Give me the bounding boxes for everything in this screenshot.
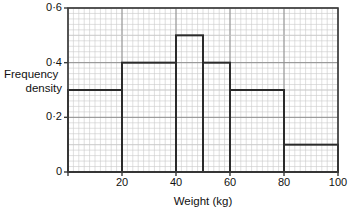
y-axis-label-line1: Frequency: [4, 68, 62, 82]
tick-marks-group: [64, 8, 338, 176]
y-tick-label: 0: [30, 165, 62, 177]
y-tick-label: 0·6: [30, 1, 62, 13]
x-tick-label: 20: [102, 176, 142, 188]
x-tick-label: 40: [156, 176, 196, 188]
y-axis-label-line2: density: [4, 82, 62, 96]
x-tick-label: 80: [264, 176, 304, 188]
histogram-figure: Frequency density Weight (kg) 00·20·40·6…: [0, 0, 350, 216]
x-axis-label: Weight (kg): [68, 195, 338, 207]
histogram-bar: [176, 35, 203, 172]
y-tick-label: 0·2: [30, 110, 62, 122]
y-axis-label: Frequency density: [4, 68, 62, 95]
x-tick-label: 100: [318, 176, 350, 188]
y-tick-label: 0·4: [30, 56, 62, 68]
x-tick-label: 60: [210, 176, 250, 188]
bars-group: [68, 35, 338, 172]
